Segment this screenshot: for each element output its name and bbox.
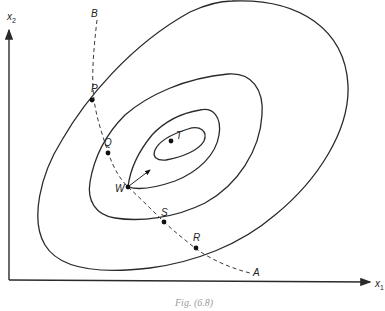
second-contour <box>89 74 262 220</box>
path-start-label: B <box>91 8 98 19</box>
point-t-label: T <box>176 130 183 141</box>
point-r <box>194 246 199 251</box>
point-w-label: W <box>115 183 126 194</box>
point-r-label: R <box>193 232 200 243</box>
search-path-dashed <box>93 20 250 273</box>
point-t <box>169 139 174 144</box>
point-q <box>106 151 111 156</box>
x-axis-label: x1 <box>374 278 384 291</box>
gradient-arrow <box>129 170 150 186</box>
point-s-label: S <box>161 207 168 218</box>
figure-caption: Fig. (6.8) <box>174 297 214 309</box>
path-end-label: A <box>252 267 260 278</box>
x-axis <box>9 280 370 282</box>
point-s <box>162 220 167 225</box>
y-axis-label: x2 <box>6 11 16 24</box>
contour-diagram: x2 x1 B A P Q W S R T Fig. (6.8) <box>0 0 385 311</box>
point-p <box>90 98 95 103</box>
outer-contour <box>38 1 348 271</box>
point-p-label: P <box>91 83 98 94</box>
point-q-label: Q <box>104 137 112 148</box>
